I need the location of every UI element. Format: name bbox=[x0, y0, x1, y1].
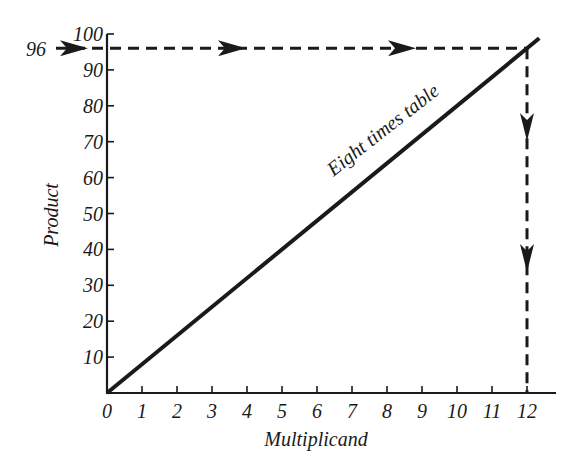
x-tick-label: 6 bbox=[312, 400, 322, 422]
x-tick-label: 11 bbox=[483, 400, 502, 422]
y-tick-label: 20 bbox=[83, 310, 103, 332]
y-marker-label: 96 bbox=[26, 38, 46, 60]
x-axis-label: Multiplicand bbox=[263, 428, 368, 451]
y-tick-label: 90 bbox=[83, 59, 103, 81]
x-tick-label: 3 bbox=[206, 400, 217, 422]
y-tick-label: 70 bbox=[83, 131, 103, 153]
eight-times-table-chart: 0123456789101112102030405060708090100 Mu… bbox=[0, 0, 582, 473]
x-tick-label: 2 bbox=[172, 400, 182, 422]
x-tick-label: 0 bbox=[102, 400, 112, 422]
y-tick-label: 30 bbox=[82, 274, 103, 296]
arrow-down-icon bbox=[520, 113, 534, 141]
y-tick-label: 60 bbox=[83, 167, 103, 189]
y-tick-label: 40 bbox=[83, 238, 103, 260]
x-tick-label: 12 bbox=[517, 400, 537, 422]
x-tick-label: 7 bbox=[347, 400, 358, 422]
y-tick-label: 100 bbox=[73, 23, 103, 45]
series-line bbox=[107, 38, 539, 393]
x-tick-label: 1 bbox=[137, 400, 147, 422]
arrow-right-icon bbox=[388, 40, 416, 56]
x-tick-label: 8 bbox=[382, 400, 392, 422]
y-tick-label: 50 bbox=[83, 203, 103, 225]
eight-times-line bbox=[107, 38, 539, 393]
x-tick-label: 5 bbox=[277, 400, 287, 422]
x-tick-label: 9 bbox=[417, 400, 427, 422]
x-tick-label: 10 bbox=[447, 400, 467, 422]
y-axis-label: Product bbox=[40, 183, 62, 248]
lookup-guides bbox=[56, 40, 534, 393]
y-tick-label: 80 bbox=[83, 95, 103, 117]
x-tick-label: 4 bbox=[242, 400, 252, 422]
y-tick-label: 10 bbox=[83, 346, 103, 368]
